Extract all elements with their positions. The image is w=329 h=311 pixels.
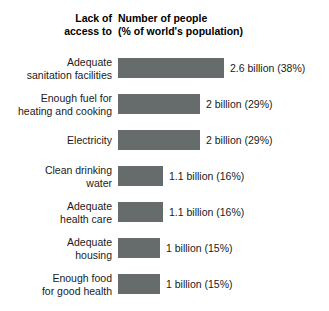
- column-header-categories: Lack of access to: [0, 12, 112, 38]
- bar-category-label: Adequatehousing: [8, 236, 112, 261]
- bar-category-label-line2: housing: [8, 248, 112, 261]
- column-header-values-line2: (% of world's population): [118, 25, 323, 38]
- column-header-values: Number of people (% of world's populatio…: [118, 12, 323, 38]
- bar-category-label: Enough fuel forheating and cooking: [8, 92, 112, 117]
- bar-fill: [118, 202, 163, 222]
- bar-category-label-line1: Electricity: [8, 134, 112, 147]
- column-header-categories-line1: Lack of: [0, 12, 112, 25]
- bar-category-label-line2: for good health: [8, 284, 112, 297]
- bar-value-label: 1 billion (15%): [166, 278, 233, 291]
- chart-header: Lack of access to Number of people (% of…: [0, 12, 329, 46]
- bar-category-label-line1: Adequate: [8, 236, 112, 249]
- bar-category-label-line1: Enough fuel for: [8, 92, 112, 105]
- bar-fill: [118, 130, 200, 150]
- column-header-categories-line2: access to: [0, 25, 112, 38]
- bar-rows: Adequatesanitation facilities2.6 billion…: [0, 50, 329, 302]
- bar-row: Adequatehousing1 billion (15%): [0, 230, 329, 266]
- bar-category-label-line2: health care: [8, 212, 112, 225]
- bar-fill: [118, 166, 163, 186]
- bar-value-label: 1.1 billion (16%): [169, 170, 244, 183]
- bar-fill: [118, 238, 160, 258]
- bar-category-label-line2: heating and cooking: [8, 104, 112, 117]
- bar-category-label: Adequatesanitation facilities: [8, 56, 112, 81]
- bar-row: Clean drinkingwater1.1 billion (16%): [0, 158, 329, 194]
- bar-fill: [118, 274, 160, 294]
- bar-value-label: 2 billion (29%): [206, 98, 273, 111]
- bar-value-label: 2 billion (29%): [206, 134, 273, 147]
- bar-fill: [118, 58, 224, 78]
- bar-category-label-line2: water: [8, 176, 112, 189]
- bar-fill: [118, 94, 200, 114]
- bar-category-label-line1: Adequate: [8, 56, 112, 69]
- bar-chart: Lack of access to Number of people (% of…: [0, 0, 329, 311]
- bar-category-label-line1: Clean drinking: [8, 164, 112, 177]
- bar-category-label-line2: sanitation facilities: [8, 68, 112, 81]
- bar-value-label: 1.1 billion (16%): [169, 206, 244, 219]
- bar-value-label: 1 billion (15%): [166, 242, 233, 255]
- bar-category-label-line1: Adequate: [8, 200, 112, 213]
- bar-category-label: Clean drinkingwater: [8, 164, 112, 189]
- bar-row: Adequatehealth care1.1 billion (16%): [0, 194, 329, 230]
- bar-category-label: Adequatehealth care: [8, 200, 112, 225]
- bar-row: Electricity2 billion (29%): [0, 122, 329, 158]
- bar-category-label: Enough foodfor good health: [8, 272, 112, 297]
- bar-category-label: Electricity: [8, 134, 112, 147]
- bar-value-label: 2.6 billion (38%): [230, 62, 305, 75]
- bar-category-label-line1: Enough food: [8, 272, 112, 285]
- column-header-values-line1: Number of people: [118, 12, 323, 25]
- bar-row: Adequatesanitation facilities2.6 billion…: [0, 50, 329, 86]
- bar-row: Enough fuel forheating and cooking2 bill…: [0, 86, 329, 122]
- bar-row: Enough foodfor good health1 billion (15%…: [0, 266, 329, 302]
